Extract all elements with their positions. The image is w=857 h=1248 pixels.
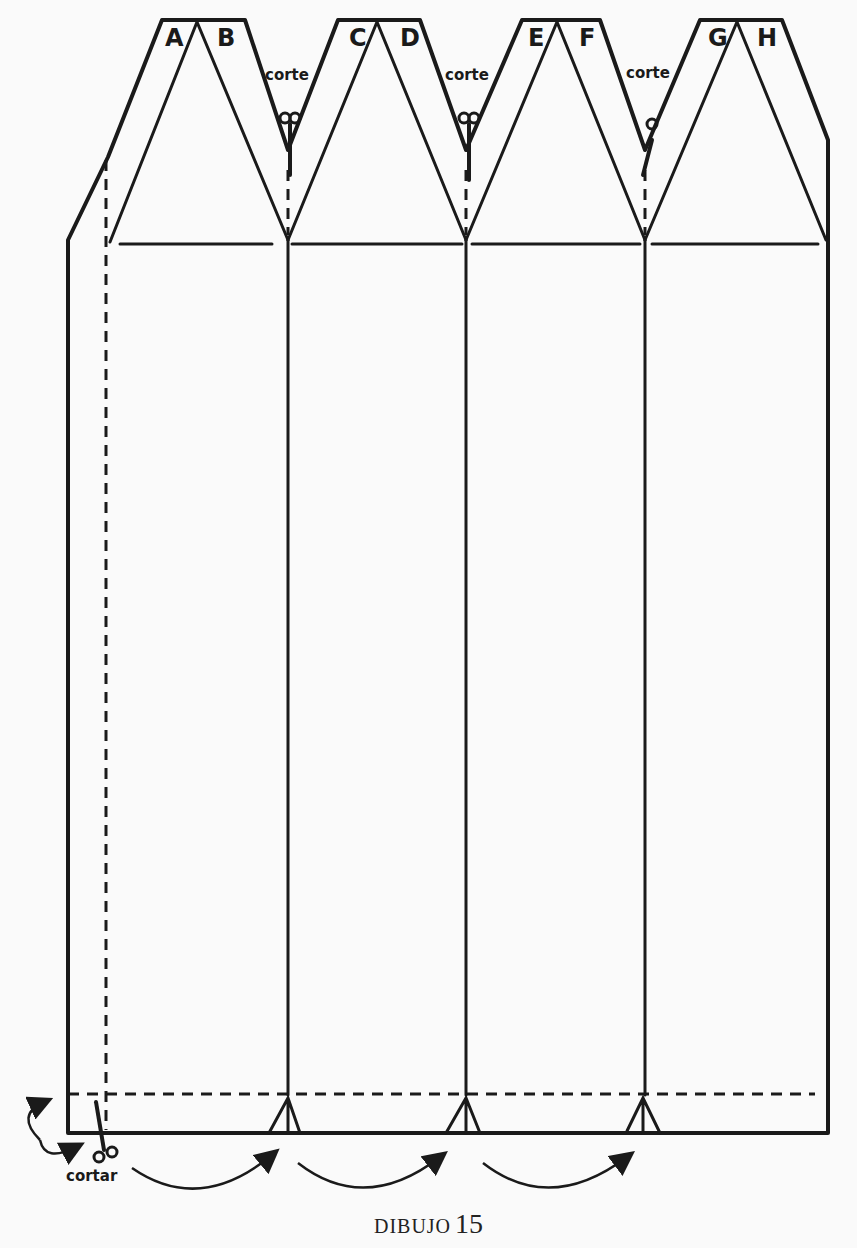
vertical-fold-lines	[288, 240, 645, 1095]
figure-caption: DIBUJO 15	[0, 1208, 857, 1240]
bottom-tabs	[269, 1098, 660, 1133]
cut-labels: corte corte corte cortar	[66, 64, 670, 1185]
bottom-cut-label: cortar	[66, 1167, 118, 1185]
panel-label-c: C	[349, 24, 367, 52]
caption-number: 15	[455, 1208, 483, 1239]
panel-labels: A B C D E F G H	[165, 24, 777, 52]
panel-label-e: E	[528, 24, 544, 52]
panel-label-g: G	[708, 24, 728, 52]
scissors-icon	[459, 113, 479, 180]
panel-label-d: D	[400, 24, 420, 52]
cut-label-3: corte	[626, 64, 670, 82]
caption-word: DIBUJO	[374, 1215, 451, 1237]
dashed-fold-lines	[68, 160, 815, 1130]
panel-label-b: B	[217, 24, 235, 52]
fold-arrows	[28, 1102, 627, 1189]
panel-label-f: F	[579, 24, 595, 52]
outer-outline	[68, 20, 828, 1133]
folding-template-diagram: A B C D E F G H corte corte corte cortar	[0, 0, 857, 1248]
cut-label-1: corte	[265, 66, 309, 84]
cut-label-2: corte	[445, 66, 489, 84]
panel-label-a: A	[165, 24, 184, 52]
panel-label-h: H	[757, 24, 777, 52]
scissors-icon	[280, 113, 300, 175]
